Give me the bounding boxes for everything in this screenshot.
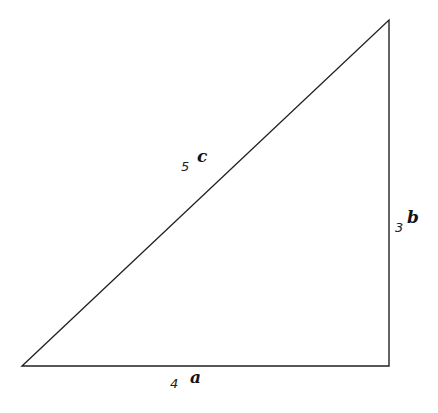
hypotenuse-length-label: 5 <box>181 160 189 173</box>
right-triangle-outline <box>22 20 389 366</box>
vertical-leg-length-label: 3 <box>395 221 403 234</box>
hypotenuse-name-label: c <box>197 148 207 165</box>
diagram-canvas: 5 c 3 b 4 a <box>0 0 438 413</box>
horizontal-leg-length-label: 4 <box>170 377 178 390</box>
horizontal-leg-name-label: a <box>190 369 201 386</box>
triangle-figure <box>0 0 438 413</box>
vertical-leg-name-label: b <box>407 209 419 226</box>
